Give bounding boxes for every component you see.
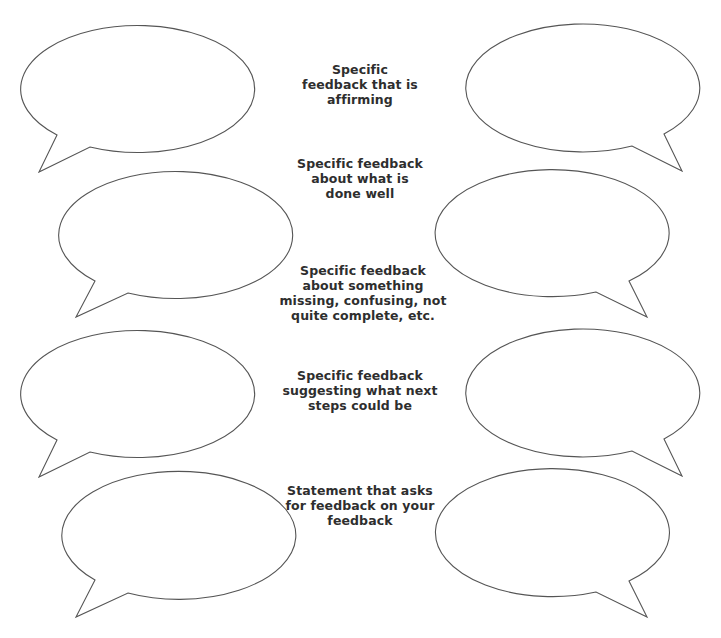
prompt-line: Specific feedback <box>282 368 437 383</box>
prompt-line: for feedback on your <box>286 498 435 513</box>
prompt-line: done well <box>297 186 423 201</box>
prompt-line: Specific feedback <box>279 263 446 278</box>
prompt-line: Statement that asks <box>286 483 435 498</box>
prompt-line: feedback that is <box>302 77 418 92</box>
bubble-row4-right-writing-area[interactable] <box>448 480 654 586</box>
prompt-line: Specific <box>302 62 418 77</box>
feedback-worksheet: Specific feedback that is affirming Spec… <box>0 0 721 638</box>
prompt-line: affirming <box>302 92 418 107</box>
prompt-line: about what is <box>297 171 423 186</box>
prompt-line: steps could be <box>282 398 437 413</box>
prompt-done-well: Specific feedback about what is done wel… <box>297 156 423 201</box>
bubble-row3-left-writing-area[interactable] <box>30 339 236 445</box>
prompt-line: feedback <box>286 513 435 528</box>
prompt-line: about something <box>279 278 446 293</box>
prompt-line: quite complete, etc. <box>279 308 446 323</box>
prompt-affirming: Specific feedback that is affirming <box>302 62 418 107</box>
bubble-row2-right-writing-area[interactable] <box>448 181 654 287</box>
prompt-missing-confusing: Specific feedback about something missin… <box>279 263 446 323</box>
prompt-feedback-on-feedback: Statement that asks for feedback on your… <box>286 483 435 528</box>
prompt-line: suggesting what next <box>282 383 437 398</box>
bubble-row4-left-writing-area[interactable] <box>68 480 274 586</box>
prompt-line: Specific feedback <box>297 156 423 171</box>
prompt-line: missing, confusing, not <box>279 293 446 308</box>
bubble-row1-left-writing-area[interactable] <box>30 34 236 140</box>
bubble-row2-left-writing-area[interactable] <box>68 181 274 287</box>
bubble-row3-right-writing-area[interactable] <box>484 339 690 445</box>
bubble-row1-right-writing-area[interactable] <box>484 34 690 140</box>
prompt-next-steps: Specific feedback suggesting what next s… <box>282 368 437 413</box>
